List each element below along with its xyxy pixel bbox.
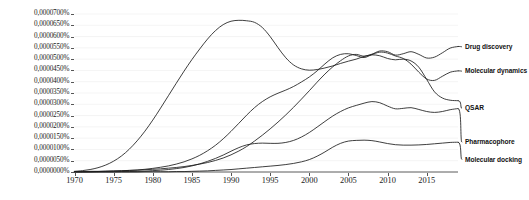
- y-tick-label: 0,0000650%: [34, 22, 70, 29]
- x-tick-label: 2000: [301, 177, 318, 185]
- y-tick-mark: [71, 14, 74, 15]
- y-tick-mark: [71, 149, 74, 150]
- x-tick-label: 1985: [184, 177, 201, 185]
- series-label-qsar[interactable]: QSAR: [465, 105, 484, 112]
- series-line-qsar: [75, 20, 459, 171]
- series-line-pharmacophore: [75, 102, 459, 172]
- series-line-molecular-docking: [75, 140, 459, 172]
- y-tick-label: 0,0000100%: [34, 146, 70, 153]
- y-tick-mark: [71, 172, 74, 173]
- x-tick-label: 2010: [379, 177, 396, 185]
- x-tick-mark: [388, 173, 389, 176]
- series-label-molecular-dynamics[interactable]: Molecular dynamics: [465, 68, 527, 75]
- x-tick-label: 2015: [418, 177, 435, 185]
- y-tick-label: 0,0000300%: [34, 101, 70, 108]
- x-tick-mark: [153, 173, 154, 176]
- y-tick-mark: [71, 116, 74, 117]
- x-tick-mark: [270, 173, 271, 176]
- x-tick-label: 1975: [105, 177, 122, 185]
- series-line-molecular-dynamics: [75, 52, 459, 172]
- y-tick-mark: [71, 93, 74, 94]
- y-tick-label: 0,0000150%: [34, 135, 70, 142]
- series-label-molecular-docking[interactable]: Molecular docking: [465, 156, 522, 163]
- y-tick-mark: [71, 37, 74, 38]
- series-leader-line: [458, 101, 462, 109]
- x-tick-mark: [427, 173, 428, 176]
- series-leader-line: [458, 109, 462, 143]
- y-tick-mark: [71, 48, 74, 49]
- y-tick-label: 0,0000400%: [34, 78, 70, 85]
- y-tick-mark: [71, 138, 74, 139]
- y-tick-label: 0,0000200%: [34, 123, 70, 130]
- y-tick-mark: [71, 25, 74, 26]
- y-tick-label: 0,0000700%: [34, 10, 70, 17]
- x-tick-mark: [75, 173, 76, 176]
- chart-plot-area: [0, 0, 529, 200]
- x-tick-label: 1990: [223, 177, 240, 185]
- x-tick-mark: [192, 173, 193, 176]
- y-tick-mark: [71, 70, 74, 71]
- x-tick-mark: [348, 173, 349, 176]
- x-tick-label: 1980: [144, 177, 161, 185]
- y-tick-mark: [71, 59, 74, 60]
- y-tick-mark: [71, 104, 74, 105]
- y-tick-label: 0,0000450%: [34, 67, 70, 74]
- y-tick-label: 0,0000050%: [34, 157, 70, 164]
- y-tick-mark: [71, 82, 74, 83]
- x-tick-mark: [231, 173, 232, 176]
- series-label-drug-discovery[interactable]: Drug discovery: [465, 43, 512, 50]
- y-tick-label: 0,0000550%: [34, 44, 70, 51]
- series-label-pharmacophore[interactable]: Pharmacophore: [465, 139, 515, 146]
- x-tick-label: 1970: [66, 177, 83, 185]
- ngram-chart: 0,0000700%0,0000650%0,0000600%0,0000550%…: [0, 0, 529, 200]
- y-tick-label: 0,0000500%: [34, 56, 70, 63]
- x-tick-mark: [114, 173, 115, 176]
- y-tick-label: 0,0000350%: [34, 89, 70, 96]
- y-tick-label: 0,0000000%: [34, 168, 70, 175]
- series-leader-line: [458, 142, 462, 159]
- y-tick-label: 0,0000250%: [34, 112, 70, 119]
- x-tick-label: 2005: [340, 177, 357, 185]
- y-tick-mark: [71, 127, 74, 128]
- x-tick-label: 1995: [262, 177, 279, 185]
- y-tick-mark: [71, 161, 74, 162]
- x-tick-mark: [309, 173, 310, 176]
- y-tick-label: 0,0000600%: [34, 33, 70, 40]
